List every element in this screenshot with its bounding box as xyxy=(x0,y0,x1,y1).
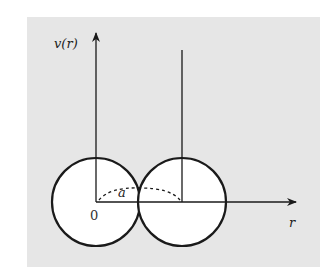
potential-diagram: v(r) r 0 a xyxy=(0,0,332,274)
y-axis-label: v(r) xyxy=(54,36,78,51)
origin-label: 0 xyxy=(90,208,98,223)
x-axis-label: r xyxy=(289,215,296,230)
distance-label: a xyxy=(118,185,126,200)
